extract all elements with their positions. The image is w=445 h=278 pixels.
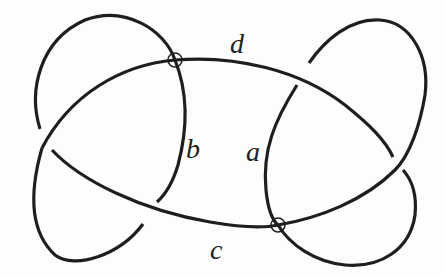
strand-d-top-arc: [42, 59, 393, 157]
label-d: d: [230, 30, 244, 58]
label-b: b: [186, 135, 200, 163]
knot-svg: [0, 0, 445, 278]
strand-a-inner-arc: [265, 85, 415, 265]
strand-left-bottom-loop: [34, 148, 143, 261]
strand-left-upper-loop: [36, 16, 185, 202]
label-a: a: [246, 138, 260, 166]
knot-diagram: d b a c: [0, 0, 445, 278]
label-c: c: [210, 236, 222, 264]
